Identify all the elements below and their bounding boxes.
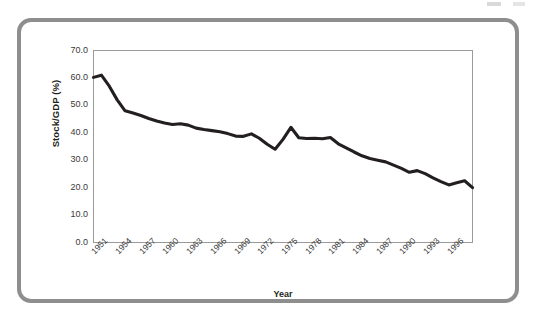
x-tick-label: 1954: [113, 235, 133, 255]
x-tick-label: 1957: [137, 235, 157, 255]
x-tick-label: 1993: [421, 235, 441, 255]
x-tick-label: 1981: [326, 235, 346, 255]
x-tick-label: 1978: [303, 235, 323, 255]
x-tick-label: 1966: [208, 235, 228, 255]
x-tick-label: 1984: [350, 235, 370, 255]
x-tick-label: 1969: [232, 235, 252, 255]
x-tick-label: 1951: [89, 235, 109, 255]
x-tick-label: 1975: [279, 235, 299, 255]
x-axis-tick-labels: 1951195419571960196319661969197219751978…: [0, 0, 536, 313]
x-tick-label: 1990: [397, 235, 417, 255]
x-tick-label: 1963: [184, 235, 204, 255]
x-tick-label: 1960: [160, 235, 180, 255]
x-tick-label: 1972: [255, 235, 275, 255]
x-tick-label: 1987: [374, 235, 394, 255]
x-tick-label: 1996: [445, 235, 465, 255]
